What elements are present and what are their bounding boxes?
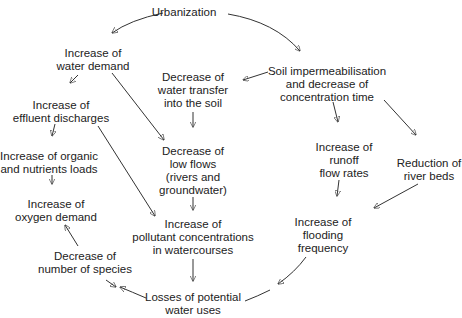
- node-river-beds: Reduction of river beds: [397, 157, 462, 183]
- node-label: effluent discharges: [13, 112, 109, 125]
- edge-soil-imperm-river-beds: [384, 100, 416, 135]
- node-label: Soil impermeabilisation: [268, 65, 386, 78]
- edge-river-beds-flooding: [374, 184, 418, 208]
- node-label: Reduction of: [397, 157, 462, 170]
- edge-effluent-organic: [52, 124, 55, 136]
- node-label: oxygen demand: [15, 211, 97, 224]
- node-label: Increase of: [316, 141, 373, 154]
- node-label: water demand: [57, 60, 130, 73]
- node-soil-impermeabilisation: Soil impermeabilisation and decrease of …: [268, 65, 386, 104]
- edge-effluent-pollutant: [98, 126, 155, 216]
- node-organic-loads: Increase of organic and nutrients loads: [0, 150, 98, 176]
- node-label: and decrease of: [268, 78, 386, 91]
- node-label: concentration time: [268, 91, 386, 104]
- edge-runoff-flooding: [337, 180, 339, 196]
- edge-urbanization-soil-imperm: [228, 14, 300, 51]
- node-label: (rivers and: [159, 171, 227, 184]
- node-label: Decrease of: [38, 250, 132, 263]
- edge-soil-imperm-runoff: [333, 102, 338, 122]
- edge-species-losses: [106, 280, 116, 287]
- node-label: Increase of: [132, 218, 253, 231]
- edge-losses-tail: [245, 290, 270, 301]
- node-low-flows: Decrease of low flows (rivers and ground…: [159, 145, 227, 197]
- node-label: water transfer: [158, 84, 228, 97]
- edge-water-demand-effluent: [70, 75, 78, 83]
- edge-oxygen-species: [65, 225, 78, 246]
- causal-diagram: Urbanization Increase of water demand In…: [0, 0, 462, 318]
- node-label: Urbanization: [152, 6, 217, 19]
- node-label: runoff: [316, 154, 373, 167]
- node-label: low flows: [159, 158, 227, 171]
- node-effluent-discharges: Increase of effluent discharges: [13, 99, 109, 125]
- node-label: river beds: [397, 170, 462, 183]
- node-label: Decrease of: [158, 71, 228, 84]
- node-label: flow rates: [316, 167, 373, 180]
- node-label: Increase of: [13, 99, 109, 112]
- node-label: Decrease of: [159, 145, 227, 158]
- node-losses-water-uses: Losses of potential water uses: [145, 291, 241, 317]
- node-pollutant-concentrations: Increase of pollutant concentrations in …: [132, 218, 253, 257]
- edge-water-demand-low-flows: [112, 73, 164, 140]
- node-flooding-frequency: Increase of flooding frequency: [295, 216, 352, 255]
- node-label: flooding: [295, 229, 352, 242]
- edge-flooding-losses: [278, 257, 306, 284]
- node-label: pollutant concentrations: [132, 231, 253, 244]
- node-label: water uses: [145, 304, 241, 317]
- node-label: Increase of: [15, 198, 97, 211]
- node-runoff-flow-rates: Increase of runoff flow rates: [316, 141, 373, 180]
- node-label: groundwater): [159, 184, 227, 197]
- node-number-of-species: Decrease of number of species: [38, 250, 132, 276]
- edge-soil-imperm-water-transfer: [243, 72, 268, 80]
- node-label: frequency: [295, 242, 352, 255]
- node-label: Increase of: [295, 216, 352, 229]
- node-label: Increase of organic: [0, 150, 98, 163]
- node-label: Increase of: [57, 47, 130, 60]
- node-label: Losses of potential: [145, 291, 241, 304]
- edge-losses-species: [120, 287, 146, 298]
- node-water-demand: Increase of water demand: [57, 47, 130, 73]
- node-label: into the soil: [158, 97, 228, 110]
- node-urbanization: Urbanization: [152, 6, 217, 19]
- node-water-transfer: Decrease of water transfer into the soil: [158, 71, 228, 110]
- node-label: number of species: [38, 263, 132, 276]
- node-label: and nutrients loads: [0, 163, 98, 176]
- node-oxygen-demand: Increase of oxygen demand: [15, 198, 97, 224]
- node-label: in watercourses: [132, 244, 253, 257]
